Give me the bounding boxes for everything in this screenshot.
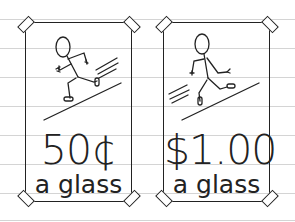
price-sign-card-2: $1.00 a glass	[163, 22, 270, 202]
price-label: $1.00	[164, 126, 269, 174]
price-label: 50¢	[26, 126, 131, 174]
price-sign-card-1: 50¢ a glass	[25, 22, 132, 202]
ruled-line	[0, 19, 295, 20]
unit-label: a glass	[164, 170, 269, 199]
ruled-line	[0, 220, 295, 221]
unit-label: a glass	[26, 170, 131, 199]
